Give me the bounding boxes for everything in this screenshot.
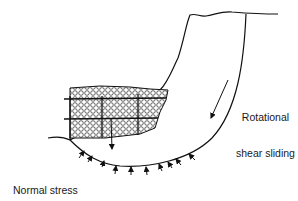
normal-stress-line1: Normal stress <box>13 184 82 196</box>
normal-stress-label: Normal stress due to buttress weight <box>13 160 82 201</box>
rotational-label-line2: shear sliding <box>236 147 295 159</box>
normal-stress-arrows <box>79 151 195 175</box>
sliding-arrow <box>211 80 228 118</box>
rotational-shear-label: Rotational shear sliding <box>236 87 295 171</box>
rotational-label-line1: Rotational <box>236 111 295 123</box>
gabion-buttress <box>64 86 168 140</box>
